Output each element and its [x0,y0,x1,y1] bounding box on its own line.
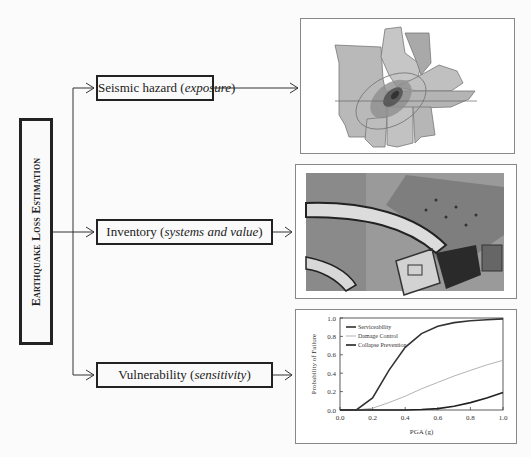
component-label: Seismic hazard [98,80,177,95]
x-tick-label: 0.2 [368,414,377,422]
y-tick-label: 0.8 [327,333,336,341]
root-box: Earthquake Loss Estimation [19,118,53,345]
legend-label: Serviceability [358,324,391,330]
y-tick-label: 1.0 [327,315,336,323]
fragility-chart-panel: 0.00.20.40.60.81.00.00.20.40.60.81.0PGA … [295,309,517,444]
aerial-photo-image [296,165,516,298]
component-seismic-hazard: Seismic hazard (exposure) [96,75,214,101]
component-label: Vulnerability [118,367,187,382]
legend-label: Damage Control [358,333,398,339]
y-tick-label: 0.4 [327,370,336,378]
x-axis-label: PGA (g) [410,428,434,436]
component-qualifier: exposure [185,80,231,95]
inventory-photo-panel [295,164,517,299]
component-qualifier: sensitivity [194,367,246,382]
series-line [340,360,503,410]
legend-label: Collapse Prevention [358,342,407,348]
component-inventory: Inventory (systems and value) [96,219,273,245]
root-label: Earthquake Loss Estimation [29,157,44,306]
y-tick-label: 0.2 [327,388,336,396]
series-line [340,393,503,411]
component-label: Inventory [106,224,157,239]
component-vulnerability: Vulnerability (sensitivity) [96,362,273,388]
x-tick-label: 0.6 [433,414,442,422]
x-tick-label: 0.0 [336,414,345,422]
plot-area [340,318,503,410]
fragility-chart: 0.00.20.40.60.81.00.00.20.40.60.81.0PGA … [296,310,516,443]
y-tick-label: 0.6 [327,351,336,359]
x-tick-label: 0.4 [401,414,410,422]
component-qualifier: systems and value [164,224,258,239]
hazard-map-panel [300,18,515,154]
y-tick-label: 0.0 [327,407,336,415]
y-axis-label: Probability of Failure [310,334,318,394]
x-tick-label: 0.8 [466,414,475,422]
x-tick-label: 1.0 [499,414,508,422]
hazard-map-image [301,19,514,153]
